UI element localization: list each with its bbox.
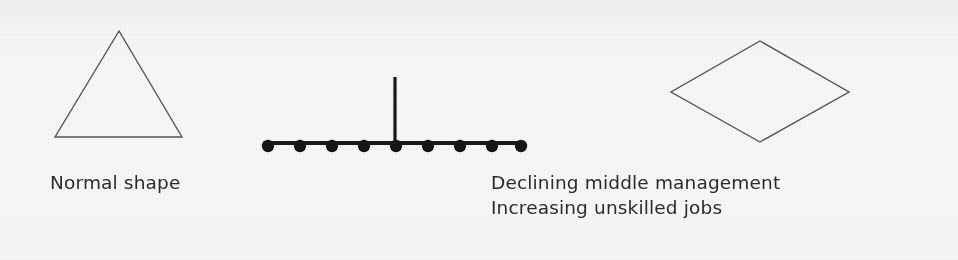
panel-normal-shape: Normal shape [0,0,240,260]
diamond-outline-icon [600,0,958,165]
triangle-outline-icon [0,0,240,165]
caption-normal-shape: Normal shape [50,170,180,195]
panel-declining-middle-management: Declining middle management Increasing u… [240,0,600,260]
flat-line-with-dots-and-spike-icon [240,0,600,165]
caption-line: Normal shape [50,170,180,195]
panel-expanding-middle-management: Expanding middle management Decreasing u… [600,0,958,260]
diagram-page: Normal shape Declining middle ma [0,0,958,260]
